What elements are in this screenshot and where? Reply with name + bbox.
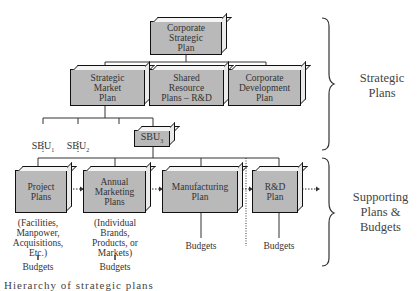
shared-resource-plans-box: Shared Resource Plans – R&D bbox=[149, 69, 224, 106]
box-label: Shared Resource Plans – R&D bbox=[161, 73, 212, 103]
supporting-plans-label: Supporting Plans & Budgets bbox=[343, 190, 418, 235]
box-label: Corporate Strategic Plan bbox=[167, 23, 205, 53]
box-label: R&D Plan bbox=[265, 182, 286, 202]
strategic-market-plan-box: Strategic Market Plan bbox=[70, 69, 145, 106]
corporate-development-plan-box: Corporate Development Plan bbox=[228, 69, 301, 106]
sbu-1-label: SBU1 bbox=[29, 131, 57, 155]
budgets-rd: Budgets bbox=[257, 241, 301, 251]
box-label: Strategic Market Plan bbox=[91, 73, 125, 103]
sbu-3-box: SBU3 bbox=[134, 130, 170, 147]
budgets-marketing: Budgets bbox=[93, 262, 137, 272]
project-plans-box: Project Plans bbox=[15, 170, 67, 213]
box-label: Manufacturing Plan bbox=[172, 182, 228, 202]
brace-supporting bbox=[322, 158, 334, 266]
annual-marketing-note: (Individual Brands, Products, or Markets… bbox=[83, 218, 147, 258]
sbu-2-label: SBU2 bbox=[64, 131, 92, 155]
strategic-plans-label: Strategic Plans bbox=[347, 71, 417, 101]
annual-marketing-plans-box: Annual Marketing Plans bbox=[83, 170, 146, 213]
rd-plan-box: R&D Plan bbox=[252, 170, 298, 213]
box-label: SBU3 bbox=[141, 132, 163, 146]
manufacturing-plan-box: Manufacturing Plan bbox=[162, 170, 238, 213]
box-label: Corporate Development Plan bbox=[239, 73, 290, 103]
budgets-manufacturing: Budgets bbox=[179, 241, 223, 251]
corporate-strategic-plan-box: Corporate Strategic Plan bbox=[150, 21, 222, 55]
brace-strategic bbox=[322, 18, 334, 150]
figure-caption: Hierarchy of strategic plans bbox=[4, 279, 154, 291]
project-plans-note: (Facilities, Manpower, Acquisitions, Etc… bbox=[6, 218, 70, 258]
box-label: Project Plans bbox=[28, 182, 55, 202]
box-label: Annual Marketing Plans bbox=[95, 177, 135, 207]
budgets-project: Budgets bbox=[16, 262, 60, 272]
